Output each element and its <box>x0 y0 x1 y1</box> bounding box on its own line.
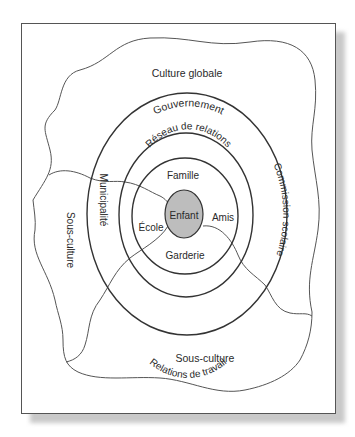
label-enfant: Enfant <box>170 210 199 221</box>
label-sous-culture-left: Sous-culture <box>65 212 76 269</box>
label-amis: Amis <box>212 212 234 223</box>
label-culture-globale: Culture globale <box>152 67 223 79</box>
label-famille: Famille <box>167 170 200 181</box>
subculture-divider-right <box>203 226 312 316</box>
label-municipalite: Municipalité <box>98 174 109 227</box>
label-ecole: École <box>138 221 163 233</box>
label-garderie: Garderie <box>166 250 205 261</box>
label-gouvernement: Gouvernement <box>151 96 226 116</box>
label-commission-scolaire: Commission scolaire <box>272 161 293 258</box>
ecological-diagram: Culture globale Gouvernement Réseau de r… <box>0 0 355 437</box>
subculture-divider-lower-left <box>66 226 168 362</box>
label-sous-culture-bottom: Sous-culture <box>176 352 235 364</box>
